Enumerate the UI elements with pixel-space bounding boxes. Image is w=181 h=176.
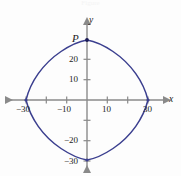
bottom-cusp-marker (85, 158, 88, 161)
y-tick-label-minus30: −30 (64, 157, 78, 166)
y-tick-label-10: 10 (69, 75, 78, 84)
plot-canvas (0, 0, 181, 176)
y-tick-label-minus20: −20 (64, 136, 78, 145)
y-tick-label-20: 20 (69, 55, 78, 64)
astroid-graph-figure: Figure (0, 0, 181, 176)
y-axis-label: y (89, 16, 93, 26)
x-axis-label: x (169, 95, 173, 105)
left-cusp-marker (24, 98, 27, 101)
x-tick-label-10: 10 (102, 105, 111, 114)
point-p-marker (85, 38, 89, 42)
x-tick-label-minus30: −30 (16, 105, 30, 114)
right-cusp-marker (146, 98, 149, 101)
x-tick-label-minus10: −10 (57, 105, 71, 114)
x-tick-label-30: 30 (143, 105, 152, 114)
point-p-label: P (72, 33, 79, 44)
